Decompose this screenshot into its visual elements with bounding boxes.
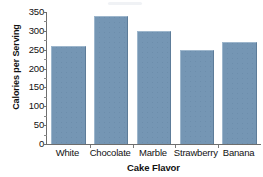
bar-texture — [95, 17, 127, 144]
x-axis-tick-label: Strawberry — [171, 147, 220, 158]
y-axis-tick-label-group: 350300250200150100500 — [17, 0, 44, 150]
scan-artifact — [108, 2, 142, 5]
bar — [180, 50, 214, 144]
x-axis-line — [46, 144, 261, 145]
x-axis-tick-label: Chocolate — [86, 147, 135, 158]
bar-chart-figure: Calories per Serving 3503002502001501005… — [0, 0, 263, 177]
bar — [137, 31, 171, 144]
x-axis-tick-label: Marble — [129, 147, 178, 158]
y-axis-tick-label: 300 — [17, 26, 44, 36]
x-axis-title: Cake Flavor — [46, 162, 261, 173]
bars-group — [47, 12, 261, 144]
bar-texture — [138, 32, 170, 144]
y-axis-tick-label: 250 — [17, 45, 44, 55]
bar-texture — [223, 43, 255, 144]
y-axis-tick-mark — [43, 144, 47, 145]
plot-area — [46, 12, 261, 144]
y-axis-tick-label: 350 — [17, 7, 44, 17]
bar — [51, 46, 85, 144]
bar-texture — [181, 51, 213, 144]
y-axis-tick-label: 150 — [17, 82, 44, 92]
y-axis-tick-label: 100 — [17, 101, 44, 111]
y-axis-tick-label: 200 — [17, 64, 44, 74]
x-axis-tick-label: White — [43, 147, 92, 158]
bar — [222, 42, 256, 144]
bar-texture — [52, 47, 84, 144]
x-axis-tick-label-group: WhiteChocolateMarbleStrawberryBanana — [46, 147, 261, 160]
y-axis-tick-label: 50 — [17, 120, 44, 130]
bar — [94, 16, 128, 144]
y-axis-tick-label: 0 — [17, 139, 44, 149]
x-axis-tick-label: Banana — [214, 147, 263, 158]
